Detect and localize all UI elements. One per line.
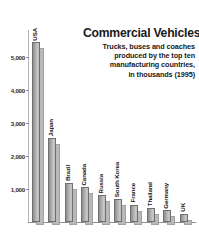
bar-column[interactable]: Germany <box>163 210 176 222</box>
bar-category-label: Canada <box>80 164 87 185</box>
plot-area: 1,0002,0003,0004,0005,000 USAJapanBrazil… <box>0 0 199 244</box>
y-axis-tick-mark <box>26 156 29 157</box>
y-axis-line <box>28 30 29 222</box>
y-axis-tick-label: 1,000 <box>3 186 25 193</box>
bar-column[interactable]: Thailand <box>147 208 160 222</box>
bar-category-label: France <box>129 183 136 202</box>
bar-category-label: Japan <box>47 119 54 136</box>
bar-category-label: Russia <box>97 174 104 193</box>
y-axis-tick-mark <box>26 123 29 124</box>
y-axis-tick-mark <box>26 57 29 58</box>
y-axis-tick-mark <box>26 189 29 190</box>
bar-face <box>32 42 40 222</box>
commercial-vehicles-bar-chart: Index of which are commercial vehicles C… <box>0 0 199 244</box>
bar-category-label: Thailand <box>146 182 153 206</box>
bar-face <box>163 210 171 222</box>
bar-face <box>98 195 106 222</box>
bar-face <box>65 183 73 222</box>
bar-face <box>130 205 138 222</box>
bar-category-label: USA <box>31 28 38 41</box>
y-axis-tick-label: 5,000 <box>3 54 25 61</box>
bar-column[interactable]: USA <box>32 42 45 222</box>
bar-category-label: Brazil <box>64 165 71 181</box>
bar-face <box>48 138 56 222</box>
bar-column[interactable]: Russia <box>98 195 111 222</box>
y-axis-tick-label: 3,000 <box>3 120 25 127</box>
y-axis-tick-label: 2,000 <box>3 153 25 160</box>
bar-face <box>180 214 188 222</box>
bar-category-label: South Korea <box>113 162 120 197</box>
bar-column[interactable]: Japan <box>48 138 61 222</box>
bar-column[interactable]: Canada <box>81 187 94 222</box>
bar-face <box>114 199 122 222</box>
y-axis-tick-mark <box>26 90 29 91</box>
bar-column[interactable]: Brazil <box>65 183 78 222</box>
y-axis-tick-label: 4,000 <box>3 87 25 94</box>
bar-category-label: Germany <box>162 183 169 209</box>
bar-category-label: UK <box>179 203 186 212</box>
bar-column[interactable]: UK <box>180 214 193 222</box>
bar-column[interactable]: France <box>130 205 143 222</box>
bar-column[interactable]: South Korea <box>114 199 127 222</box>
bar-face <box>147 208 155 222</box>
bar-face <box>81 187 89 222</box>
